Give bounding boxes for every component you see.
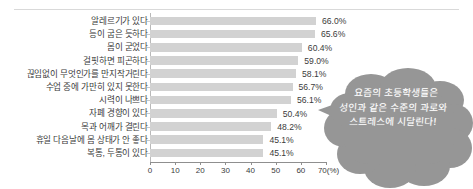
bar xyxy=(150,17,316,26)
category-label: 목과 어깨가 결린다 xyxy=(8,121,148,133)
bar xyxy=(150,30,315,39)
category-label: 휴일 다음날에 몸 상태가 안 좋다 xyxy=(8,134,148,146)
chart-page: 알레르기가 있다66.0%등이 굽은 듯하다65.6%몸이 굳었다60.4%걸핏… xyxy=(0,0,473,189)
chart-row: 등이 굽은 듯하다65.6% xyxy=(0,28,473,40)
chart-row: 걸핏하면 피곤하다59.0% xyxy=(0,55,473,67)
bar-container xyxy=(150,122,271,131)
x-axis-tick xyxy=(301,162,302,165)
bar-container xyxy=(150,30,315,39)
x-axis-tick-label: 40 xyxy=(246,166,255,175)
x-axis-tick xyxy=(225,162,226,165)
bar-container xyxy=(150,69,296,78)
bar xyxy=(150,149,263,158)
bar xyxy=(150,122,271,131)
category-label: 자폐 경향이 있다 xyxy=(8,107,148,119)
value-label: 50.4% xyxy=(283,108,307,120)
bar-container xyxy=(150,83,293,92)
value-label: 45.1% xyxy=(269,134,293,146)
x-axis-tick xyxy=(200,162,201,165)
x-axis-tick-label: 50 xyxy=(271,166,280,175)
x-axis-line xyxy=(150,162,326,163)
category-label: 복통, 두통이 있다 xyxy=(8,147,148,159)
speech-cloud-shape xyxy=(316,66,473,189)
category-label: 끊임없이 무엇인가를 만지작거린다 xyxy=(8,68,148,80)
value-label: 59.0% xyxy=(304,55,328,67)
bar xyxy=(150,69,296,78)
x-axis-tick-label: 20 xyxy=(196,166,205,175)
bar xyxy=(150,96,291,105)
category-label: 시력이 나쁘다 xyxy=(8,94,148,106)
speech-cloud-callout: 요즘의 초등학생들은 성인과 같은 수준의 과로와 스트레스에 시달린다! xyxy=(316,66,473,189)
x-axis-tick-label: 30 xyxy=(221,166,230,175)
bar-container xyxy=(150,96,291,105)
bar-container xyxy=(150,109,277,118)
x-axis-tick xyxy=(150,162,151,165)
x-axis-tick-label: 10 xyxy=(171,166,180,175)
bar xyxy=(150,135,263,144)
chart-row: 몸이 굳었다60.4% xyxy=(0,41,473,53)
category-label: 등이 굽은 듯하다 xyxy=(8,28,148,40)
x-axis-tick xyxy=(175,162,176,165)
bar-container xyxy=(150,149,263,158)
x-axis-tick xyxy=(276,162,277,165)
bar-container xyxy=(150,135,263,144)
bar xyxy=(150,83,293,92)
value-label: 45.1% xyxy=(269,147,293,159)
x-axis-tick-label: 60 xyxy=(296,166,305,175)
category-label: 걸핏하면 피곤하다 xyxy=(8,55,148,67)
category-label: 수업 중에 가만히 있지 못한다 xyxy=(8,81,148,93)
bar xyxy=(150,109,277,118)
category-label: 몸이 굳었다 xyxy=(8,41,148,53)
bar-container xyxy=(150,17,316,26)
value-label: 60.4% xyxy=(308,42,332,54)
x-axis-tick-label: 0 xyxy=(148,166,152,175)
bar-container xyxy=(150,56,298,65)
value-label: 66.0% xyxy=(322,15,346,27)
category-label: 알레르기가 있다 xyxy=(8,15,148,27)
bar xyxy=(150,43,302,52)
x-axis-tick xyxy=(251,162,252,165)
value-label: 48.2% xyxy=(277,121,301,133)
bar xyxy=(150,56,298,65)
bar-container xyxy=(150,43,302,52)
chart-row: 알레르기가 있다66.0% xyxy=(0,15,473,27)
value-label: 65.6% xyxy=(321,28,345,40)
